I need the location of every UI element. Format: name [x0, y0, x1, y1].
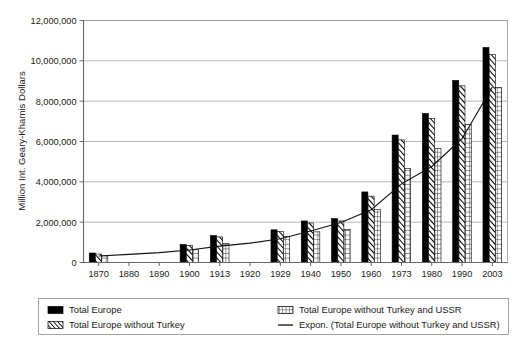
y-tick-label: 0: [71, 258, 76, 268]
bar: [314, 232, 320, 263]
bar: [96, 254, 102, 262]
y-tick-label: 4,000,000: [36, 177, 77, 187]
y-tick-label: 8,000,000: [36, 97, 77, 107]
bar-series-group: [89, 48, 501, 263]
bar: [338, 221, 344, 263]
bar: [459, 86, 465, 263]
bar: [362, 192, 368, 263]
x-tick-label: 1940: [300, 269, 320, 279]
legend-swatch: [278, 307, 293, 314]
x-tick-label: 1913: [210, 269, 230, 279]
bar: [308, 223, 314, 263]
bar: [193, 250, 199, 263]
legend-label: Total Europe: [69, 304, 122, 315]
x-tick-label: 1870: [88, 269, 108, 279]
x-tick-label: 1960: [361, 269, 381, 279]
bar: [398, 140, 404, 263]
y-axis-tick-labels: 02,000,0004,000,0006,000,0008,000,00010,…: [31, 16, 84, 268]
legend-label: Total Europe without Turkey: [69, 319, 185, 330]
bar: [422, 113, 428, 262]
bar: [180, 245, 186, 263]
bar: [301, 221, 307, 263]
bar-chart-figure: 02,000,0004,000,0006,000,0008,000,00010,…: [0, 0, 527, 345]
x-tick-label: 1950: [331, 269, 351, 279]
bar: [495, 87, 501, 262]
legend-swatch: [48, 322, 63, 329]
bar: [217, 237, 223, 263]
legend-label: Total Europe without Turkey and USSR: [299, 304, 462, 315]
bar: [374, 210, 380, 263]
bar: [277, 231, 283, 262]
bar: [429, 118, 435, 262]
bar: [368, 196, 374, 262]
bar: [283, 237, 289, 263]
chart-legend: Total EuropeTotal Europe without TurkeyT…: [39, 299, 509, 335]
bar: [435, 148, 441, 262]
y-tick-label: 12,000,000: [31, 16, 77, 26]
legend-label: Expon. (Total Europe without Turkey and …: [299, 319, 500, 330]
y-tick-label: 10,000,000: [31, 56, 77, 66]
x-tick-label: 1900: [179, 269, 199, 279]
bar: [465, 125, 471, 263]
bar: [210, 235, 216, 262]
x-tick-label: 1890: [149, 269, 169, 279]
x-tick-label: 1880: [119, 269, 139, 279]
legend-swatch: [48, 307, 63, 314]
chart-container: 02,000,0004,000,0006,000,0008,000,00010,…: [0, 0, 527, 345]
bar: [483, 48, 489, 263]
bar: [405, 169, 411, 263]
bar: [102, 256, 108, 263]
bar: [89, 253, 95, 262]
bar: [453, 80, 459, 262]
y-axis-title: Million Int. Geary-Khamis Dollars: [16, 71, 27, 211]
bar: [489, 55, 495, 263]
bar: [271, 230, 277, 263]
x-tick-label: 1973: [391, 269, 411, 279]
x-tick-label: 1990: [452, 269, 472, 279]
x-tick-label: 1929: [270, 269, 290, 279]
bar: [186, 246, 192, 263]
x-tick-label: 2003: [482, 269, 502, 279]
x-axis-tick-labels: 1870188018901900191319201929194019501960…: [88, 263, 502, 280]
y-tick-label: 6,000,000: [36, 137, 77, 147]
x-tick-label: 1920: [240, 269, 260, 279]
gridlines: [84, 21, 508, 223]
bar: [344, 229, 350, 262]
bar: [392, 135, 398, 262]
y-tick-label: 2,000,000: [36, 218, 77, 228]
x-tick-label: 1980: [422, 269, 442, 279]
